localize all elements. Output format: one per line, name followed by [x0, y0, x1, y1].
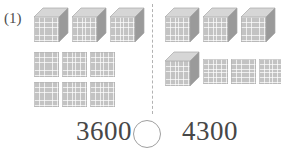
hundred-flat: [90, 52, 115, 77]
problem-number-label: (1): [4, 10, 22, 27]
group-divider: [152, 4, 153, 114]
hundred-flat: [62, 52, 87, 77]
hundred-flat: [203, 59, 228, 84]
comparison-operator-circle[interactable]: [133, 120, 161, 148]
thousand-cube: [110, 8, 144, 42]
cube-front-face: [203, 17, 228, 42]
left-number: 3600: [76, 116, 132, 147]
comparison-row: 3600 4300: [0, 116, 281, 150]
cube-front-face: [110, 17, 135, 42]
hundred-flat: [34, 82, 59, 107]
hundred-flat: [34, 52, 59, 77]
cube-front-face: [241, 17, 266, 42]
thousand-cube: [241, 8, 275, 42]
hundred-flat: [259, 59, 281, 84]
worksheet-canvas: (1) 3600 4300: [0, 0, 281, 150]
thousand-cube: [165, 8, 199, 42]
cube-front-face: [34, 17, 59, 42]
cube-front-face: [165, 61, 190, 86]
right-number: 4300: [182, 116, 238, 147]
hundred-flat: [62, 82, 87, 107]
thousand-cube: [203, 8, 237, 42]
cube-front-face: [165, 17, 190, 42]
hundred-flat: [231, 59, 256, 84]
thousand-cube: [165, 52, 199, 86]
hundred-flat: [90, 82, 115, 107]
thousand-cube: [34, 8, 68, 42]
cube-front-face: [72, 17, 97, 42]
thousand-cube: [72, 8, 106, 42]
